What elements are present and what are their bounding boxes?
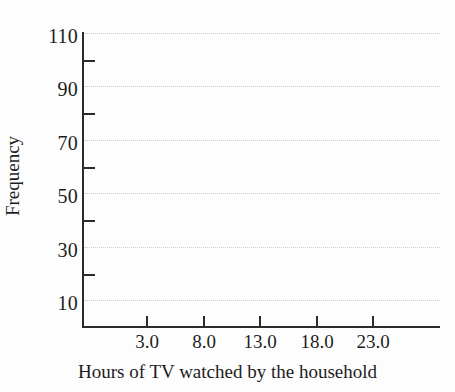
gridline-50 bbox=[84, 193, 440, 194]
y-axis-title: Frequency bbox=[3, 116, 23, 236]
y-tick-label-10: 10 bbox=[34, 293, 78, 313]
y-minor-tick-100 bbox=[84, 60, 95, 62]
x-tick-23 bbox=[372, 316, 374, 327]
gridline-10 bbox=[84, 300, 440, 301]
y-minor-tick-20 bbox=[84, 274, 95, 276]
gridline-30 bbox=[84, 247, 440, 248]
y-tick-label-70: 70 bbox=[34, 133, 78, 153]
gridline-90 bbox=[84, 86, 440, 87]
y-minor-tick-80 bbox=[84, 113, 95, 115]
chart-figure: 110 90 70 50 30 10 3.0 8.0 13.0 18.0 23.… bbox=[0, 0, 455, 392]
gridline-70 bbox=[84, 140, 440, 141]
y-tick-label-110: 110 bbox=[34, 26, 78, 46]
x-tick-3 bbox=[146, 316, 148, 327]
x-axis-spine bbox=[82, 326, 440, 328]
y-tick-label-group: 110 90 70 50 30 10 bbox=[30, 0, 78, 392]
y-tick-label-90: 90 bbox=[34, 79, 78, 99]
x-tick-8 bbox=[203, 316, 205, 327]
y-minor-tick-60 bbox=[84, 167, 95, 169]
x-tick-label-23: 23.0 bbox=[338, 331, 408, 353]
y-tick-label-30: 30 bbox=[34, 240, 78, 260]
y-axis-spine bbox=[82, 32, 84, 328]
y-minor-tick-40 bbox=[84, 220, 95, 222]
x-tick-13 bbox=[259, 316, 261, 327]
x-tick-18 bbox=[316, 316, 318, 327]
plot-area bbox=[84, 33, 440, 327]
x-axis-title: Hours of TV watched by the household bbox=[0, 360, 455, 384]
gridline-110 bbox=[84, 33, 440, 34]
y-tick-label-50: 50 bbox=[34, 186, 78, 206]
